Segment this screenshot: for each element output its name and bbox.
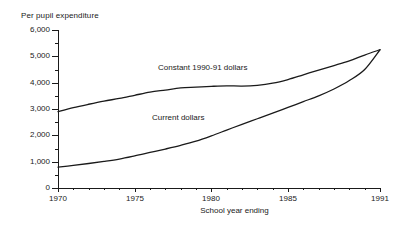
line-constant-dollars [58, 50, 380, 112]
x-axis-title-row: School year ending [0, 206, 409, 215]
x-axis-title: School year ending [200, 206, 269, 215]
annotation-constant-dollars: Constant 1990-91 dollars [158, 64, 247, 72]
chart-figure: Per pupil expenditure 6,0005,0004,0003,0… [0, 0, 409, 226]
series-lines [0, 0, 409, 226]
annotation-current-dollars: Current dollars [152, 114, 204, 122]
